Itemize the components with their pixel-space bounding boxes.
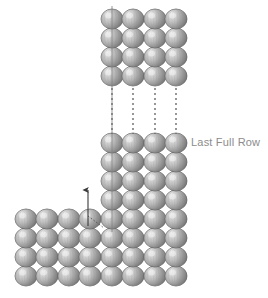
sphere bbox=[144, 9, 166, 29]
dashed-connectors bbox=[112, 88, 176, 134]
sphere bbox=[122, 9, 144, 29]
sphere bbox=[144, 247, 166, 267]
sphere bbox=[101, 247, 123, 267]
sphere bbox=[165, 190, 187, 210]
sphere bbox=[36, 228, 58, 248]
sphere bbox=[36, 266, 58, 286]
sphere bbox=[79, 228, 101, 248]
sphere bbox=[122, 209, 144, 229]
sphere bbox=[122, 152, 144, 172]
sphere bbox=[122, 228, 144, 248]
sphere bbox=[165, 28, 187, 48]
sphere bbox=[144, 47, 166, 67]
sphere bbox=[165, 171, 187, 191]
sphere bbox=[58, 228, 80, 248]
sphere bbox=[15, 209, 37, 229]
sphere bbox=[144, 209, 166, 229]
sphere bbox=[144, 28, 166, 48]
sphere bbox=[144, 228, 166, 248]
sphere bbox=[144, 66, 166, 86]
sphere bbox=[58, 266, 80, 286]
sphere bbox=[122, 171, 144, 191]
sphere bbox=[165, 66, 187, 86]
sphere bbox=[36, 209, 58, 229]
sphere bbox=[165, 266, 187, 286]
sphere bbox=[79, 247, 101, 267]
sphere bbox=[165, 209, 187, 229]
sphere bbox=[144, 190, 166, 210]
sphere bbox=[122, 266, 144, 286]
sphere bbox=[122, 66, 144, 86]
sphere bbox=[144, 266, 166, 286]
sphere bbox=[165, 152, 187, 172]
sphere bbox=[15, 247, 37, 267]
spheres-layer bbox=[15, 9, 187, 286]
sphere bbox=[58, 247, 80, 267]
sphere bbox=[79, 209, 101, 229]
sphere bbox=[144, 152, 166, 172]
sphere bbox=[15, 228, 37, 248]
sphere bbox=[79, 266, 101, 286]
sphere bbox=[36, 247, 58, 267]
sphere-packing-diagram bbox=[0, 0, 268, 298]
sphere bbox=[165, 228, 187, 248]
sphere bbox=[165, 47, 187, 67]
sphere bbox=[144, 133, 166, 153]
sphere bbox=[122, 190, 144, 210]
sphere bbox=[122, 133, 144, 153]
sphere bbox=[122, 47, 144, 67]
sphere bbox=[58, 209, 80, 229]
sphere bbox=[165, 247, 187, 267]
last-full-row-label: Last Full Row bbox=[191, 137, 260, 148]
sphere bbox=[15, 266, 37, 286]
sphere bbox=[122, 247, 144, 267]
sphere bbox=[122, 28, 144, 48]
sphere bbox=[101, 266, 123, 286]
sphere bbox=[165, 9, 187, 29]
sphere bbox=[144, 171, 166, 191]
diagram-canvas: Last Full Row bbox=[0, 0, 268, 298]
sphere bbox=[165, 133, 187, 153]
